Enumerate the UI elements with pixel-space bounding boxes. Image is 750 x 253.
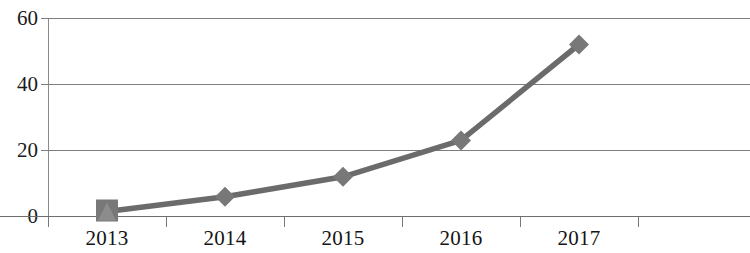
series-markers — [96, 34, 589, 221]
line-chart: 60 40 20 0 2013 2014 2015 2016 2017 — [0, 0, 750, 253]
data-point-marker — [215, 187, 235, 207]
data-point-marker — [333, 167, 353, 187]
plot-area — [0, 0, 750, 253]
